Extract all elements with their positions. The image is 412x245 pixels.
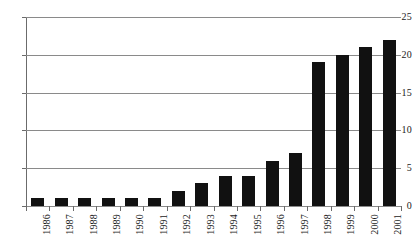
bar-2000[interactable] (359, 47, 372, 206)
bar-1989[interactable] (102, 198, 115, 206)
x-tick-label-1990: 1990 (135, 214, 145, 235)
x-tick-label-1991: 1991 (159, 214, 169, 235)
x-tick-mark-1995 (260, 206, 261, 211)
x-tick-label-1998: 1998 (323, 214, 333, 235)
bar-1998[interactable] (312, 62, 325, 206)
x-tick-label-2000: 2000 (370, 214, 380, 235)
bar-1997[interactable] (289, 153, 302, 206)
bar-1986[interactable] (31, 198, 44, 206)
bar-1995[interactable] (242, 176, 255, 206)
x-tick-label-1988: 1988 (89, 214, 99, 235)
bar-1991[interactable] (148, 198, 161, 206)
x-tick-mark-origin (26, 206, 27, 211)
x-tick-mark-1999 (354, 206, 355, 211)
x-tick-mark-1991 (167, 206, 168, 211)
x-tick-label-1999: 1999 (346, 214, 356, 235)
x-tick-mark-1998 (331, 206, 332, 211)
plot-area (26, 17, 401, 206)
bar-chart: 0510152025 19861987198819891990199119921… (0, 0, 412, 245)
bar-1993[interactable] (195, 183, 208, 206)
bar-1996[interactable] (266, 161, 279, 206)
bar-2001[interactable] (383, 40, 396, 206)
x-tick-mark-1986 (49, 206, 50, 211)
x-tick-label-2001: 2001 (393, 214, 403, 235)
x-tick-mark-1988 (96, 206, 97, 211)
x-tick-mark-1997 (307, 206, 308, 211)
x-tick-label-1994: 1994 (229, 214, 239, 235)
bar-1999[interactable] (336, 55, 349, 206)
gridline-25 (26, 17, 401, 18)
x-tick-label-1989: 1989 (112, 214, 122, 235)
x-tick-mark-1993 (214, 206, 215, 211)
bar-1990[interactable] (125, 198, 138, 206)
x-tick-mark-1990 (143, 206, 144, 211)
x-tick-label-1997: 1997 (300, 214, 310, 235)
x-tick-mark-1992 (190, 206, 191, 211)
x-tick-mark-1987 (73, 206, 74, 211)
x-tick-label-1995: 1995 (253, 214, 263, 235)
x-tick-label-1993: 1993 (206, 214, 216, 235)
x-tick-mark-1996 (284, 206, 285, 211)
x-tick-label-1987: 1987 (65, 214, 75, 235)
bar-1987[interactable] (55, 198, 68, 206)
bar-1994[interactable] (219, 176, 232, 206)
x-tick-mark-1994 (237, 206, 238, 211)
bar-1988[interactable] (78, 198, 91, 206)
x-tick-label-1996: 1996 (276, 214, 286, 235)
x-tick-mark-1989 (120, 206, 121, 211)
bar-1992[interactable] (172, 191, 185, 206)
x-tick-mark-2000 (378, 206, 379, 211)
x-tick-label-1986: 1986 (42, 214, 52, 235)
x-tick-mark-2001 (401, 206, 402, 211)
x-tick-label-1992: 1992 (182, 214, 192, 235)
